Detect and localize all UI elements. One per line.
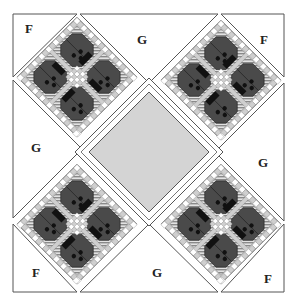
label-f-top-right: F: [260, 32, 268, 47]
label-f-bottom-left: F: [32, 265, 40, 280]
quilt-diagram: F G F G G F G F: [0, 0, 298, 307]
label-g-bottom: G: [152, 265, 162, 280]
label-g-right: G: [258, 155, 268, 170]
label-f-top-left: F: [25, 21, 33, 36]
label-g-left: G: [31, 140, 41, 155]
label-g-top: G: [137, 32, 147, 47]
label-f-bottom-right: F: [264, 271, 272, 286]
